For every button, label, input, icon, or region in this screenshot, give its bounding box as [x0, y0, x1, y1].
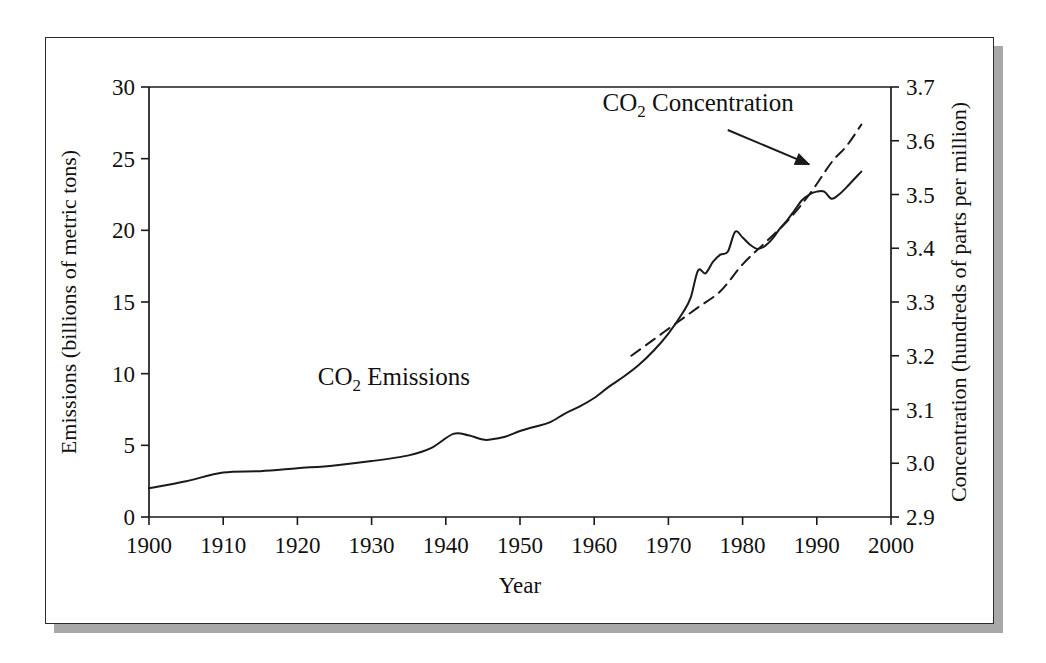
x-tick-label: 1930 [349, 533, 395, 558]
x-tick-label: 2000 [868, 533, 914, 558]
y-tick-label-right: 3.1 [906, 398, 935, 423]
y-tick-label-right: 3.7 [906, 75, 935, 100]
x-tick-label: 1950 [497, 533, 543, 558]
x-tick-label: 1900 [126, 533, 172, 558]
y-tick-label-left: 5 [124, 433, 136, 458]
co2-concentration-label: CO2 Concentration [603, 89, 795, 121]
y-tick-label-right: 3.0 [906, 451, 935, 476]
y-tick-label-right: 3.3 [906, 290, 935, 315]
figure-plate: 0510152025302.93.03.13.23.33.43.53.63.71… [45, 37, 994, 624]
figure-container: 0510152025302.93.03.13.23.33.43.53.63.71… [0, 0, 1046, 663]
x-tick-label: 1980 [720, 533, 766, 558]
annotation-arrow-head [794, 154, 809, 165]
y-tick-label-left: 20 [112, 218, 135, 243]
x-tick-label: 1940 [423, 533, 469, 558]
y-tick-label-left: 0 [124, 505, 136, 530]
x-tick-label: 1990 [794, 533, 840, 558]
x-tick-label: 1970 [645, 533, 691, 558]
y-tick-label-left: 10 [112, 362, 135, 387]
x-tick-label: 1960 [571, 533, 617, 558]
y-tick-label-left: 15 [112, 290, 135, 315]
y-tick-label-right: 3.4 [906, 236, 935, 261]
y-tick-label-left: 25 [112, 147, 135, 172]
co2-chart: 0510152025302.93.03.13.23.33.43.53.63.71… [46, 38, 992, 622]
y-tick-label-left: 30 [112, 75, 135, 100]
y-tick-label-right: 2.9 [906, 505, 935, 530]
x-axis-title: Year [499, 573, 542, 598]
y-tick-label-right: 3.2 [906, 344, 935, 369]
y-tick-label-right: 3.6 [906, 129, 935, 154]
co2-emissions-label: CO2 Emissions [318, 363, 470, 395]
x-tick-label: 1910 [200, 533, 246, 558]
x-tick-label: 1920 [274, 533, 320, 558]
y-axis-title-left: Emissions (billions of metric tons) [56, 150, 81, 454]
y-tick-label-right: 3.5 [906, 183, 935, 208]
series-line-emissions [149, 172, 861, 489]
y-axis-title-right: Concentration (hundreds of parts per mil… [946, 102, 971, 502]
